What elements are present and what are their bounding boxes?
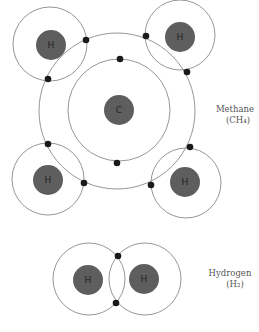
- hydrogen-label: H: [177, 32, 184, 42]
- shared-electron-top: [115, 253, 122, 260]
- hydrogen-label-left: H: [85, 275, 92, 285]
- methane-molecule: C H H H H: [12, 0, 221, 218]
- shared-electron-bottom: [113, 300, 120, 307]
- hydrogen-formula: (H₂): [202, 279, 258, 290]
- inner-electron-bottom: [114, 160, 121, 167]
- shared-electron: [81, 180, 88, 187]
- hydrogen-name: Hydrogen: [202, 268, 258, 279]
- carbon-label: C: [116, 105, 122, 115]
- methane-caption: Methane (CH₄): [210, 104, 259, 126]
- shared-electron: [83, 37, 90, 44]
- inner-electron-top: [117, 56, 124, 63]
- hydrogen-molecule: H H: [53, 243, 181, 315]
- shared-electron: [148, 182, 155, 189]
- shared-electron: [184, 69, 191, 76]
- hydrogen-atom-top-left: H: [13, 7, 89, 82]
- hydrogen-atom-bottom-right: H: [148, 144, 221, 218]
- methane-name: Methane: [210, 104, 259, 115]
- methane-formula: (CH₄): [210, 115, 259, 126]
- hydrogen-label-right: H: [141, 274, 148, 284]
- hydrogen-caption: Hydrogen (H₂): [202, 268, 258, 290]
- shared-electron: [143, 33, 150, 40]
- hydrogen-label: H: [45, 175, 52, 185]
- hydrogen-label: H: [182, 177, 189, 187]
- hydrogen-label: H: [48, 40, 55, 50]
- shared-electron: [187, 144, 194, 151]
- shared-electron: [45, 76, 52, 83]
- shared-electron: [45, 141, 52, 148]
